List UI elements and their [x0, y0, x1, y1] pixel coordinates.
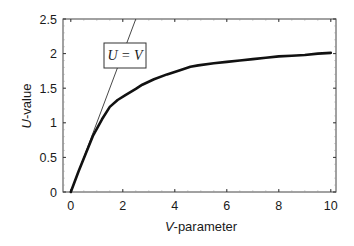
- y-tick-label: 0.5: [40, 151, 57, 165]
- x-tick-label: 8: [275, 199, 282, 213]
- x-axis-label: V-parameter: [165, 219, 238, 234]
- chart: 0246810 00.511.522.5 U = V V-parameter U…: [0, 0, 354, 246]
- x-tick-label: 4: [171, 199, 178, 213]
- x-tick-label: 10: [324, 199, 338, 213]
- y-tick-label: 1.5: [40, 82, 57, 96]
- y-tick-label: 2: [50, 47, 57, 61]
- y-tick-label: 1: [50, 116, 57, 130]
- y-axis-label: U-value: [19, 84, 34, 129]
- y-tick-label: 0: [50, 186, 57, 200]
- annotation-label: U = V: [107, 48, 144, 63]
- x-tick-label: 2: [119, 199, 126, 213]
- y-tick-label: 2.5: [40, 13, 57, 27]
- x-tick-labels: 0246810: [67, 199, 337, 213]
- annotation-u-equals-v: U = V: [104, 43, 146, 68]
- u-value-curve: [71, 53, 331, 192]
- y-tick-labels: 00.511.522.5: [40, 13, 57, 200]
- x-tick-label: 0: [67, 199, 74, 213]
- x-tick-label: 6: [223, 199, 230, 213]
